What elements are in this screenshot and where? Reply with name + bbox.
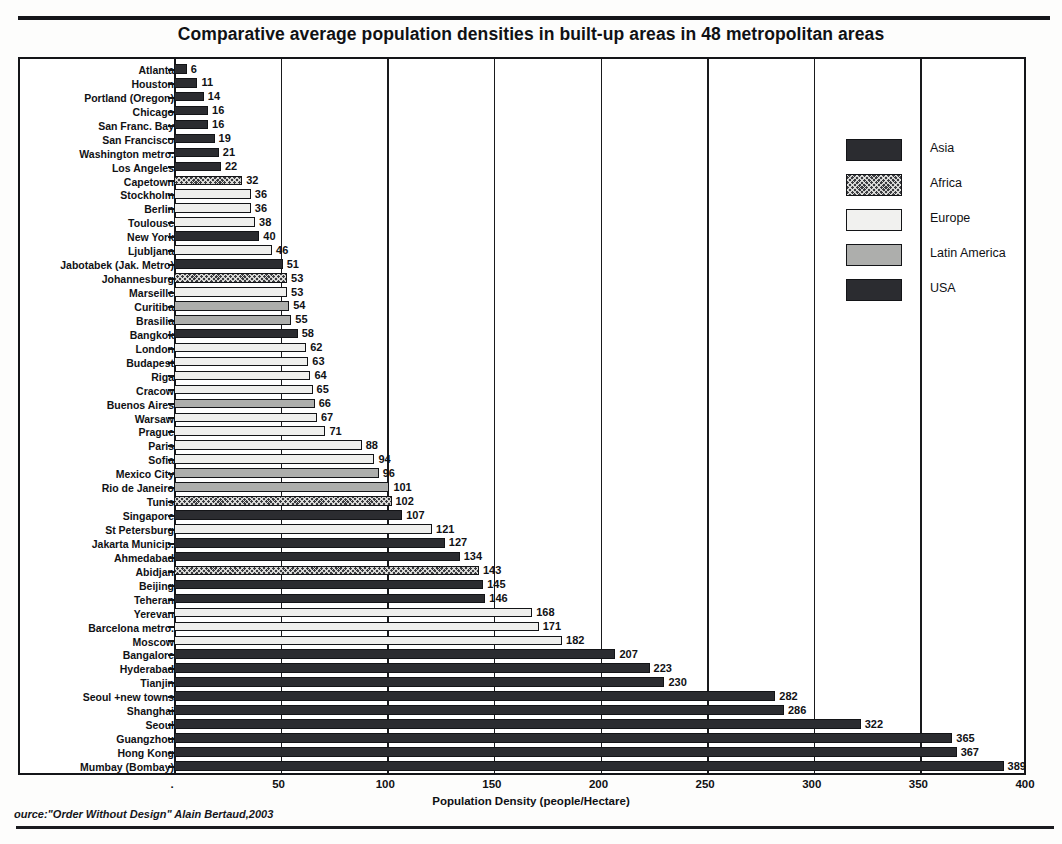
bar-asia[interactable] [174,580,483,590]
x-tick-label: . [170,778,173,790]
x-tick-label: 400 [1015,778,1034,790]
bar-value-label: 55 [295,314,307,325]
bar-asia[interactable] [174,538,445,548]
bar-usa[interactable] [174,106,208,116]
bar-value-label: 207 [619,649,637,660]
bar-europe[interactable] [174,440,362,450]
bar-row: Budapest63 [20,357,1024,371]
bar-value-label: 107 [406,510,424,521]
bar-row: Mumbay (Bombay)389 [20,761,1024,775]
bar-europe[interactable] [174,622,539,632]
bar-europe[interactable] [174,636,562,646]
bar-asia[interactable] [174,733,952,743]
bar-latin[interactable] [174,399,315,409]
category-label: Buenos Aires [107,400,174,411]
bar-asia[interactable] [174,552,460,562]
bar-value-label: 67 [321,412,333,423]
bar-europe[interactable] [174,608,532,618]
x-tick-label: 150 [482,778,501,790]
bar-europe[interactable] [174,245,272,255]
bar-row: Mexico City96 [20,468,1024,482]
bar-usa[interactable] [174,162,221,172]
bar-europe[interactable] [174,343,306,353]
bar-europe[interactable] [174,454,374,464]
legend-item-latin[interactable]: Latin America [826,242,1022,268]
bar-latin[interactable] [174,315,291,325]
bar-latin[interactable] [174,482,389,492]
bar-asia[interactable] [174,663,650,673]
bar-asia[interactable] [174,747,957,757]
bar-usa[interactable] [174,120,208,130]
bar-africa[interactable] [174,176,242,186]
bar-row: Teheran146 [20,594,1024,608]
bar-europe[interactable] [174,203,251,213]
bar-value-label: 102 [396,496,414,507]
bar-asia[interactable] [174,510,402,520]
category-label: Guangzhou [116,734,174,745]
bar-row: St Petersburg121 [20,524,1024,538]
bar-asia[interactable] [174,259,283,269]
bar-asia[interactable] [174,329,298,339]
bar-value-label: 63 [312,356,324,367]
bar-usa[interactable] [174,134,215,144]
bar-africa[interactable] [174,566,479,576]
bar-value-label: 53 [291,273,303,284]
bar-asia[interactable] [174,649,615,659]
bar-africa[interactable] [174,496,392,506]
bar-asia[interactable] [174,719,861,729]
bar-row: London62 [20,343,1024,357]
bar-row: Paris88 [20,440,1024,454]
legend-swatch-europe [846,209,902,231]
bar-asia[interactable] [174,677,664,687]
bar-row: Hong Kong367 [20,747,1024,761]
bar-value-label: 121 [436,524,454,535]
bar-row: Barcelona metro.171 [20,622,1024,636]
bar-europe[interactable] [174,385,313,395]
category-label: Singapore [123,511,174,522]
category-label: Jakarta Municip. [92,539,174,550]
bar-latin[interactable] [174,468,379,478]
bar-europe[interactable] [174,371,310,381]
bar-row: San Franc. Bay16 [20,120,1024,134]
bar-row: Seoul +new towns282 [20,691,1024,705]
bar-asia[interactable] [174,691,775,701]
bar-europe[interactable] [174,357,308,367]
category-label: Bangalore [123,650,174,661]
bar-europe[interactable] [174,524,432,534]
bar-usa[interactable] [174,92,204,102]
bar-row: Singapore107 [20,510,1024,524]
bar-europe[interactable] [174,189,251,199]
bar-row: Chicago16 [20,106,1024,120]
bar-value-label: 16 [212,119,224,130]
bar-asia[interactable] [174,705,784,715]
bar-value-label: 65 [317,384,329,395]
legend-item-asia[interactable]: Asia [826,137,1022,163]
bar-value-label: 21 [223,147,235,158]
bar-row: Rio de Janeiro101 [20,482,1024,496]
category-label: Portland (Oregon) [84,93,174,104]
bar-europe[interactable] [174,426,325,436]
bar-europe[interactable] [174,287,287,297]
bar-asia[interactable] [174,761,1004,771]
bar-row: Moscow182 [20,636,1024,650]
bar-usa[interactable] [174,78,197,88]
bar-row: Tianjin230 [20,677,1024,691]
x-axis-label: Population Density (people/Hectare) [0,795,1062,807]
bar-value-label: 11 [201,77,213,88]
bar-usa[interactable] [174,231,259,241]
bar-usa[interactable] [174,64,187,74]
bar-value-label: 101 [393,482,411,493]
bar-europe[interactable] [174,413,317,423]
legend-item-europe[interactable]: Europe [826,207,1022,233]
bar-usa[interactable] [174,148,219,158]
bar-africa[interactable] [174,273,287,283]
category-label: Mexico City [116,469,174,480]
bar-value-label: 168 [536,607,554,618]
bar-value-label: 230 [668,677,686,688]
bar-europe[interactable] [174,217,255,227]
bar-asia[interactable] [174,594,485,604]
legend-item-usa[interactable]: USA [826,277,1022,303]
bar-latin[interactable] [174,301,289,311]
legend-item-africa[interactable]: Africa [826,172,1022,198]
category-label: Stockholm [120,190,174,201]
